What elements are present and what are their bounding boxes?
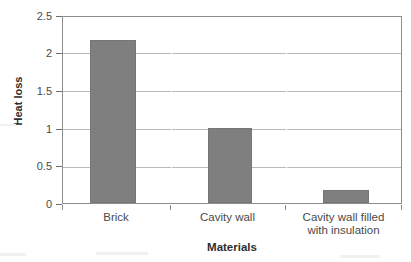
x-axis-tick-2 xyxy=(285,205,286,210)
plot-area xyxy=(62,16,402,204)
scan-artifact-3 xyxy=(96,252,148,255)
scan-artifact-2 xyxy=(0,253,26,256)
y-axis-label-2: 2 xyxy=(12,48,52,59)
bar-cavity-wall-filled-with-insulation[interactable] xyxy=(323,190,369,203)
x-axis-tick-right xyxy=(401,205,402,210)
category-divider-1 xyxy=(171,17,172,203)
clipped-title-sliver xyxy=(0,0,411,5)
category-divider-2 xyxy=(286,17,287,203)
y-axis-label-0: 0 xyxy=(12,199,52,210)
bar-brick[interactable] xyxy=(90,40,136,203)
x-axis-tick-1 xyxy=(170,205,171,210)
scan-artifact-4 xyxy=(340,255,380,258)
x-axis-label-cavity-wall-line-1: Cavity wall xyxy=(170,211,285,224)
bar-cavity-wall[interactable] xyxy=(208,128,252,203)
x-axis-label-brick: Brick xyxy=(62,211,170,224)
x-axis-label-cavity-wall-filled: Cavity wall filled with insulation xyxy=(285,211,402,237)
x-axis-label-cavity-wall: Cavity wall xyxy=(170,211,285,224)
x-axis-label-brick-line-1: Brick xyxy=(62,211,170,224)
y-axis-label-2_5: 2.5 xyxy=(12,11,52,22)
x-axis-label-cavity-wall-filled-line-2: with insulation xyxy=(285,224,402,237)
scan-artifact-1 xyxy=(0,124,16,126)
y-axis-label-1: 1 xyxy=(12,124,52,135)
x-axis-tick-left xyxy=(62,205,63,210)
y-axis-label-1_5: 1.5 xyxy=(12,86,52,97)
y-axis-label-0_5: 0.5 xyxy=(12,161,52,172)
x-axis-label-cavity-wall-filled-line-1: Cavity wall filled xyxy=(285,211,402,224)
